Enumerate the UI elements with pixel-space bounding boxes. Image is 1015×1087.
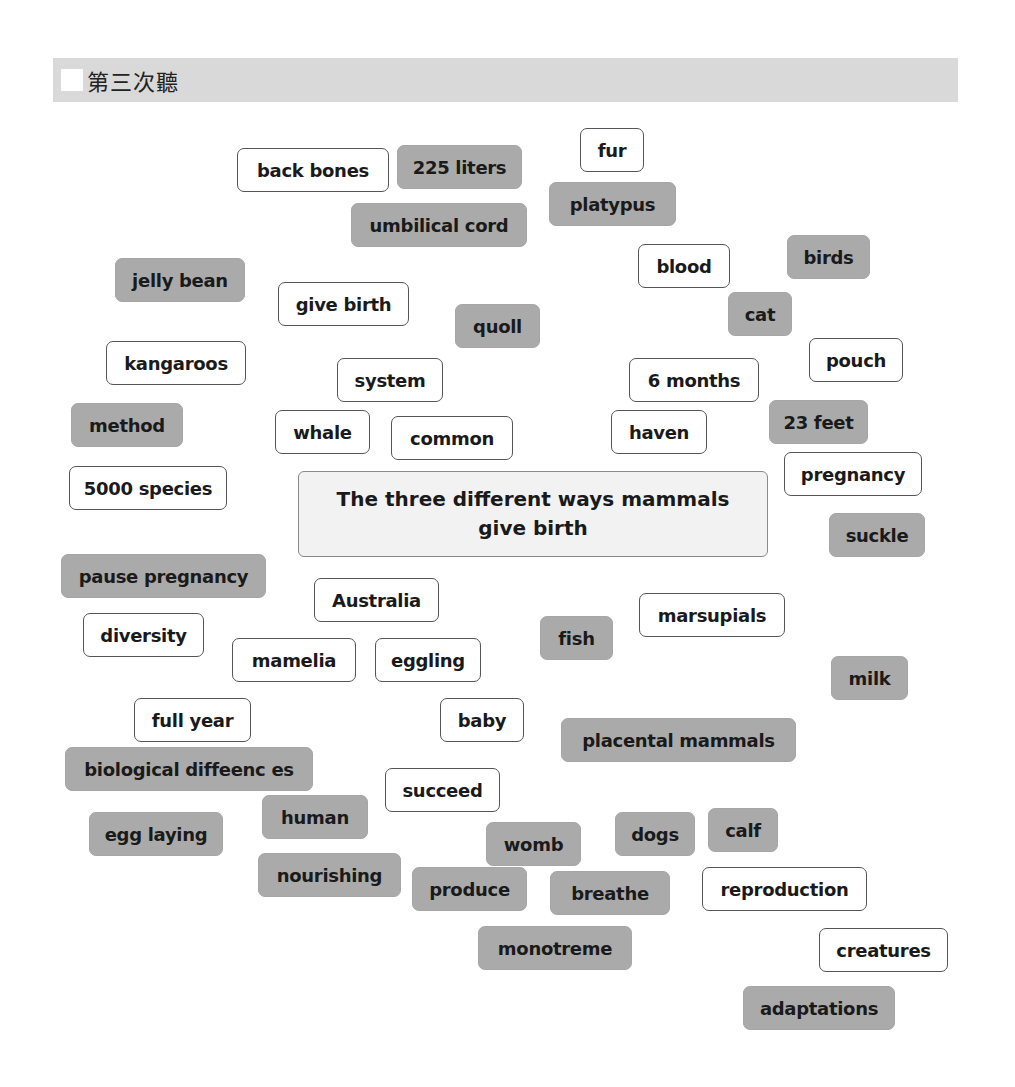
word-card-label: baby [458,710,506,731]
word-card-label: mamelia [252,650,336,671]
word-card-label: milk [849,668,891,689]
word-card-label: cat [745,304,776,325]
word-card-label: blood [656,256,711,277]
word-card-label: quoll [473,316,522,337]
word-card-label: pause pregnancy [79,566,249,587]
word-card-biological-diffeenc-es[interactable]: biological diffeenc es [65,747,313,791]
word-card-225-liters[interactable]: 225 liters [397,145,522,189]
word-card-womb[interactable]: womb [486,822,581,866]
word-card-label: give birth [296,294,392,315]
word-card-label: full year [152,710,234,731]
word-card-label: reproduction [721,879,849,900]
word-card-breathe[interactable]: breathe [550,871,670,915]
word-card-label: 225 liters [413,157,507,178]
word-card-23-feet[interactable]: 23 feet [769,400,868,444]
word-card-kangaroos[interactable]: kangaroos [106,341,246,385]
word-card-label: placental mammals [582,730,774,751]
word-card-label: succeed [402,780,482,801]
word-card-method[interactable]: method [71,403,183,447]
word-card-label: fish [558,628,594,649]
word-card-suckle[interactable]: suckle [829,513,925,557]
word-card-produce[interactable]: produce [412,867,527,911]
word-card-label: umbilical cord [370,215,509,236]
word-card-back-bones[interactable]: back bones [237,148,389,192]
word-card-label: breathe [571,883,649,904]
section-header: 第三次聽 [53,58,958,102]
word-card-label: human [281,807,349,828]
header-square-icon [61,69,83,91]
section-title: 第三次聽 [87,64,179,96]
word-card-label: pouch [826,350,886,371]
word-card-label: adaptations [760,998,878,1019]
word-card-5000-species[interactable]: 5000 species [69,466,227,510]
word-card-umbilical-cord[interactable]: umbilical cord [351,203,527,247]
word-card-label: egg laying [105,824,208,845]
word-card-pregnancy[interactable]: pregnancy [784,452,922,496]
word-card-marsupials[interactable]: marsupials [639,593,785,637]
word-card-calf[interactable]: calf [708,808,778,852]
word-card-pouch[interactable]: pouch [809,338,903,382]
word-card-label: womb [504,834,563,855]
word-card-dogs[interactable]: dogs [615,812,695,856]
word-card-common[interactable]: common [391,416,513,460]
word-card-6-months[interactable]: 6 months [629,358,759,402]
word-card-monotreme[interactable]: monotreme [478,926,632,970]
word-card-label: 23 feet [783,412,853,433]
word-card-whale[interactable]: whale [275,410,370,454]
word-card-label: 6 months [648,370,740,391]
word-card-milk[interactable]: milk [831,656,908,700]
word-card-human[interactable]: human [262,795,368,839]
word-card-label: whale [293,422,351,443]
word-card-reproduction[interactable]: reproduction [702,867,867,911]
word-card-label: monotreme [498,938,612,959]
word-card-label: system [355,370,426,391]
word-card-label: kangaroos [124,353,228,374]
word-card-haven[interactable]: haven [611,410,707,454]
word-card-label: birds [803,247,853,268]
word-card-diversity[interactable]: diversity [83,613,204,657]
word-card-adaptations[interactable]: adaptations [743,986,895,1030]
word-card-label: dogs [631,824,679,845]
word-card-platypus[interactable]: platypus [549,182,676,226]
word-card-australia[interactable]: Australia [314,578,439,622]
word-card-full-year[interactable]: full year [134,698,251,742]
word-card-pause-pregnancy[interactable]: pause pregnancy [61,554,266,598]
central-topic-text: The three different ways mammals give bi… [319,485,747,543]
word-card-label: biological diffeenc es [84,759,293,780]
word-card-label: pregnancy [801,464,905,485]
word-card-label: common [410,428,494,449]
word-card-fur[interactable]: fur [580,128,644,172]
word-card-egg-laying[interactable]: egg laying [89,812,223,856]
word-card-label: marsupials [658,605,766,626]
word-card-birds[interactable]: birds [787,235,870,279]
word-card-fish[interactable]: fish [540,616,613,660]
word-card-label: haven [629,422,689,443]
word-card-blood[interactable]: blood [638,244,730,288]
word-card-label: creatures [836,940,930,961]
word-card-label: fur [598,140,627,161]
word-card-label: eggling [391,650,465,671]
word-card-system[interactable]: system [337,358,443,402]
word-card-label: diversity [100,625,186,646]
word-card-creatures[interactable]: creatures [819,928,948,972]
word-card-baby[interactable]: baby [440,698,524,742]
word-card-label: suckle [846,525,909,546]
word-card-label: platypus [570,194,656,215]
word-card-give-birth[interactable]: give birth [278,282,409,326]
word-card-mamelia[interactable]: mamelia [232,638,356,682]
word-card-label: Australia [332,590,421,611]
word-card-nourishing[interactable]: nourishing [258,853,401,897]
word-card-label: nourishing [277,865,382,886]
word-card-jelly-bean[interactable]: jelly bean [115,258,245,302]
word-card-eggling[interactable]: eggling [375,638,481,682]
word-card-quoll[interactable]: quoll [455,304,540,348]
word-card-label: method [89,415,165,436]
word-card-label: produce [429,879,510,900]
word-card-placental-mammals[interactable]: placental mammals [561,718,796,762]
word-card-succeed[interactable]: succeed [385,768,500,812]
word-card-cat[interactable]: cat [728,292,792,336]
word-card-label: jelly bean [132,270,228,291]
word-card-label: 5000 species [84,478,212,499]
word-card-label: back bones [257,160,369,181]
word-card-label: calf [725,820,761,841]
